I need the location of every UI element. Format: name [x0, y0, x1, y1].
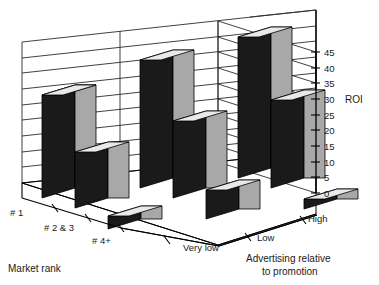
roi-tick-35: 35	[324, 78, 335, 89]
roi-tick-0: 0	[324, 188, 329, 199]
advertising-tick-verylow: Very low	[183, 242, 219, 253]
roi-tick-10: 10	[324, 157, 335, 168]
three-d-bar-chart: 45 40 35 30 25 20 15 10 5 0 ROI # 1 # 2 …	[0, 0, 379, 285]
bar-rank4-verylow	[108, 206, 162, 229]
roi-tick-30: 30	[324, 94, 335, 105]
roi-axis-title: ROI	[345, 94, 363, 105]
roi-tick-5: 5	[324, 172, 329, 183]
roi-tick-20: 20	[324, 125, 335, 136]
market-rank-tick-1: # 1	[10, 207, 23, 218]
bar-rank23-high	[271, 90, 325, 188]
market-rank-tick-4: # 4+	[92, 235, 111, 246]
market-rank-tick-23: # 2 & 3	[44, 222, 74, 233]
roi-tick-25: 25	[324, 110, 335, 121]
roi-tick-15: 15	[324, 141, 335, 152]
advertising-axis-title-line2: to promotion	[262, 266, 318, 277]
chart-container: 45 40 35 30 25 20 15 10 5 0 ROI # 1 # 2 …	[0, 0, 379, 285]
advertising-axis-line	[121, 215, 317, 246]
roi-tick-45: 45	[324, 47, 335, 58]
advertising-axis-title-line1: Advertising relative	[246, 253, 331, 264]
bar-rank23-verylow	[75, 142, 129, 208]
advertising-tick-low: Low	[257, 232, 275, 243]
bar-rank23-low	[173, 111, 227, 198]
side-panel-gridlines	[250, 10, 316, 17]
market-rank-axis-title: Market rank	[8, 263, 62, 274]
floor-front-edge	[121, 215, 317, 246]
roi-tick-40: 40	[324, 63, 335, 74]
advertising-tick-high: High	[308, 213, 328, 224]
